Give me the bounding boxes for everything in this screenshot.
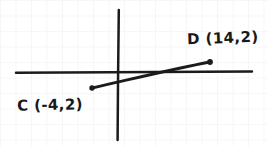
coordinate-plane-figure: C (-4,2) D (14,2)	[0, 0, 268, 146]
y-axis	[118, 10, 119, 140]
figure-ink-layer	[0, 0, 268, 146]
point-c-marker	[89, 85, 94, 90]
segment-CD	[92, 62, 210, 88]
point-d-label: D (14,2)	[187, 28, 259, 49]
x-axis	[16, 71, 252, 72]
point-c-label: C (-4,2)	[17, 95, 83, 115]
point-d-marker	[207, 59, 213, 65]
